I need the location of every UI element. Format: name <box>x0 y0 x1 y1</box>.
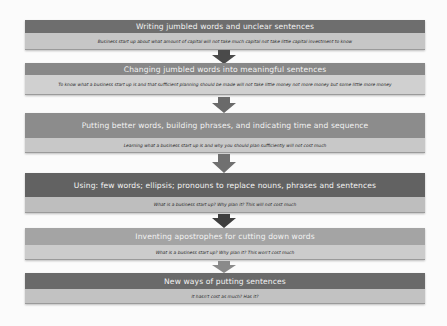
step-example: Learning what a business start up is and… <box>25 138 425 153</box>
step-title: Using: few words; ellipsis; pronouns to … <box>25 173 425 197</box>
step-title: Putting better words, building phrases, … <box>25 113 425 138</box>
step-example: To know what a business start up is and … <box>25 75 425 95</box>
step-example: What is a business start up? Why plan it… <box>25 197 425 213</box>
flow-step-3: Putting better words, building phrases, … <box>25 113 425 153</box>
step-example: Business start up about what amount of c… <box>25 33 425 50</box>
flow-step-4: Using: few words; ellipsis; pronouns to … <box>25 173 425 213</box>
down-arrow-icon <box>212 97 236 113</box>
flow-step-6: New ways of putting sentences It hasn't … <box>25 273 425 304</box>
step-example: What is a business start up? Why plan it… <box>25 245 425 260</box>
step-title: Changing jumbled words into meaningful s… <box>25 63 425 75</box>
down-arrow-icon <box>212 261 236 273</box>
step-example: It hasn't cost as much? Has it? <box>25 289 425 304</box>
down-arrow-icon <box>212 154 236 173</box>
flow-step-1: Writing jumbled words and unclear senten… <box>25 20 425 50</box>
down-arrow-icon <box>212 214 236 228</box>
down-arrow-icon <box>212 50 236 64</box>
step-title: New ways of putting sentences <box>25 273 425 289</box>
step-title: Writing jumbled words and unclear senten… <box>25 20 425 33</box>
flow-step-2: Changing jumbled words into meaningful s… <box>25 63 425 95</box>
step-title: Inventing apostrophes for cutting down w… <box>25 228 425 245</box>
flow-step-5: Inventing apostrophes for cutting down w… <box>25 228 425 260</box>
